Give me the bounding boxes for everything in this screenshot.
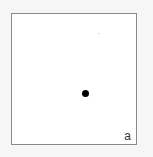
center-dot[interactable] bbox=[82, 90, 89, 97]
canvas-panel[interactable]: a bbox=[11, 13, 137, 145]
faint-mark bbox=[98, 33, 100, 34]
panel-label: a bbox=[124, 130, 131, 142]
